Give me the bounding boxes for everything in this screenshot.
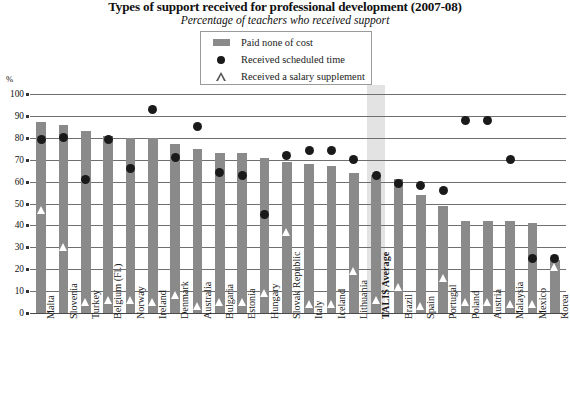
triangle-marker-slovenia[interactable] — [59, 243, 67, 251]
legend-item-paid-none-of-cost: Paid none of cost — [201, 34, 371, 51]
y-tick-mark-30 — [26, 246, 29, 249]
bar-brazil[interactable] — [394, 179, 404, 313]
y-axis-unit-label: % — [6, 74, 13, 84]
triangle-marker-norway[interactable] — [126, 296, 134, 304]
x-tick-label-brazil: Brazil — [403, 294, 414, 319]
y-tick-mark-80 — [26, 137, 29, 140]
x-tick-label-slovenia: Slovenia — [68, 283, 79, 319]
x-tick-label-malta: Malta — [45, 295, 56, 319]
x-tick-label-spain: Spain — [425, 296, 436, 319]
x-tick-label-bulgaria: Bulgaria — [224, 284, 235, 319]
x-tick-label-portugal: Portugal — [447, 284, 458, 319]
dot-marker-norway[interactable] — [126, 164, 135, 173]
dot-marker-spain[interactable] — [416, 181, 425, 190]
triangle-marker-brazil[interactable] — [394, 283, 402, 291]
x-tick-label-norway: Norway — [135, 286, 146, 319]
x-tick-label-estonia: Estonia — [246, 288, 257, 319]
x-tick-label-denmark: Denmark — [179, 281, 190, 319]
y-tick-label-60: 60 — [2, 177, 24, 187]
y-tick-label-90: 90 — [2, 111, 24, 121]
y-tick-mark-10 — [26, 290, 29, 293]
triangle-marker-lithuania[interactable] — [349, 267, 357, 275]
dot-marker-ireland[interactable] — [148, 105, 157, 114]
legend-bar-swatch-icon — [201, 39, 241, 46]
bar-slovenia[interactable] — [59, 125, 69, 313]
dot-marker-talis-average[interactable] — [372, 171, 381, 180]
x-tick-label-turkey: Turkey — [90, 290, 101, 319]
dot-marker-australia[interactable] — [193, 122, 202, 131]
dot-marker-iceland[interactable] — [327, 146, 336, 155]
y-tick-mark-60 — [26, 181, 29, 184]
x-tick-label-slovak-republic: Slovak Republic — [291, 251, 302, 319]
bar-italy[interactable] — [304, 164, 314, 313]
dot-marker-slovak-republic[interactable] — [282, 151, 291, 160]
dot-marker-italy[interactable] — [305, 146, 314, 155]
y-tick-mark-90 — [26, 115, 29, 118]
triangle-marker-turkey[interactable] — [81, 298, 89, 306]
legend-label-1: Received scheduled time — [241, 54, 345, 65]
triangle-marker-bulgaria[interactable] — [215, 298, 223, 306]
y-tick-label-100: 100 — [2, 89, 24, 99]
triangle-marker-poland[interactable] — [461, 298, 469, 306]
x-tick-label-poland: Poland — [470, 291, 481, 319]
triangle-marker-belgium-fl-[interactable] — [104, 296, 112, 304]
dot-marker-mexico[interactable] — [528, 254, 537, 263]
dot-marker-poland[interactable] — [461, 116, 470, 125]
x-tick-label-ireland: Ireland — [157, 290, 168, 319]
triangle-marker-italy[interactable] — [305, 300, 313, 308]
triangle-marker-malaysia[interactable] — [506, 300, 514, 308]
x-tick-label-austria: Austria — [492, 289, 503, 319]
triangle-marker-ireland[interactable] — [148, 298, 156, 306]
bar-ireland[interactable] — [148, 138, 158, 313]
triangle-marker-malta[interactable] — [37, 206, 45, 214]
y-tick-label-40: 40 — [2, 220, 24, 230]
gridline-100 — [30, 94, 566, 95]
dot-marker-malaysia[interactable] — [506, 155, 515, 164]
legend-item-received-salary-supplement: Received a salary supplement — [201, 68, 371, 85]
x-tick-label-italy: Italy — [313, 300, 324, 319]
chart-legend: Paid none of cost Received scheduled tim… — [200, 31, 372, 85]
y-tick-label-0: 0 — [2, 308, 24, 318]
triangle-marker-talis-average[interactable] — [372, 296, 380, 304]
bar-turkey[interactable] — [81, 131, 91, 313]
y-tick-mark-0 — [26, 312, 29, 315]
dot-marker-denmark[interactable] — [171, 153, 180, 162]
y-tick-label-50: 50 — [2, 199, 24, 209]
x-tick-label-belgium-fl-: Belgium (Fl.) — [112, 264, 123, 319]
triangle-marker-estonia[interactable] — [238, 298, 246, 306]
dot-marker-hungary[interactable] — [260, 210, 269, 219]
bar-malta[interactable] — [36, 122, 46, 313]
dot-marker-austria[interactable] — [483, 116, 492, 125]
x-tick-label-malaysia: Malaysia — [514, 282, 525, 319]
bar-australia[interactable] — [193, 149, 203, 313]
dot-marker-lithuania[interactable] — [349, 155, 358, 164]
y-tick-mark-70 — [26, 159, 29, 162]
triangle-marker-spain[interactable] — [416, 302, 424, 310]
y-tick-label-30: 30 — [2, 242, 24, 252]
y-tick-mark-100 — [26, 93, 29, 96]
triangle-marker-portugal[interactable] — [439, 274, 447, 282]
x-tick-label-iceland: Iceland — [336, 289, 347, 319]
triangle-marker-austria[interactable] — [483, 298, 491, 306]
triangle-marker-mexico[interactable] — [528, 300, 536, 308]
triangle-marker-slovak-republic[interactable] — [282, 228, 290, 236]
triangle-marker-australia[interactable] — [193, 302, 201, 310]
x-tick-label-talis-average: TALIS Average — [380, 252, 391, 319]
x-tick-label-australia: Australia — [202, 282, 213, 319]
y-tick-label-70: 70 — [2, 155, 24, 165]
y-tick-mark-40 — [26, 224, 29, 227]
triangle-marker-korea[interactable] — [550, 263, 558, 271]
dot-marker-portugal[interactable] — [439, 186, 448, 195]
y-tick-label-80: 80 — [2, 133, 24, 143]
legend-dot-swatch-icon — [201, 56, 241, 64]
bar-iceland[interactable] — [327, 166, 337, 313]
triangle-marker-denmark[interactable] — [171, 291, 179, 299]
dot-marker-estonia[interactable] — [238, 171, 247, 180]
chart-subtitle: Percentage of teachers who received supp… — [0, 14, 570, 27]
x-tick-label-korea: Korea — [559, 294, 570, 319]
x-tick-label-mexico: Mexico — [537, 288, 548, 319]
legend-label-2: Received a salary supplement — [241, 71, 365, 82]
x-tick-label-lithuania: Lithuania — [358, 280, 369, 319]
triangle-marker-iceland[interactable] — [327, 300, 335, 308]
triangle-marker-hungary[interactable] — [260, 289, 268, 297]
